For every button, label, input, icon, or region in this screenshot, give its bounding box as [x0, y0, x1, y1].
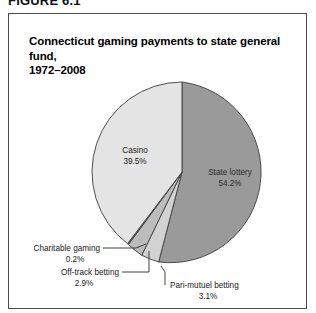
- title-line-2: 1972–2008: [29, 63, 291, 78]
- title-line-1: Connecticut gaming payments to state gen…: [29, 34, 291, 63]
- figure-container: FIGURE 6.1 Connecticut gaming payments t…: [0, 0, 316, 313]
- figure-frame: Connecticut gaming payments to state gen…: [8, 13, 307, 309]
- figure-number-label: FIGURE 6.1: [8, 0, 81, 5]
- page-title: Connecticut gaming payments to state gen…: [29, 34, 291, 78]
